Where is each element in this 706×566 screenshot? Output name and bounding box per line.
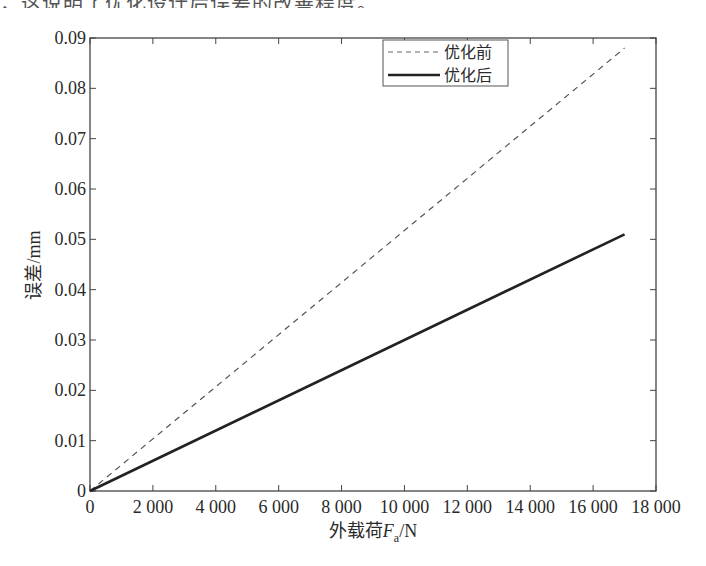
x-tick-label: 0 xyxy=(86,497,95,517)
x-tick-label: 14 000 xyxy=(505,497,555,517)
y-tick-label: 0.09 xyxy=(55,28,87,48)
x-axis-title: 外载荷Fa/N xyxy=(329,521,417,545)
x-axis-title-prefix: 外载荷 xyxy=(329,521,383,541)
y-tick-label: 0 xyxy=(77,481,86,501)
y-tick-labels: 00.010.020.030.040.050.060.070.080.09 xyxy=(55,28,87,501)
series-after-optimization xyxy=(90,234,625,491)
x-tick-label: 4 000 xyxy=(196,497,237,517)
y-tick-label: 0.06 xyxy=(55,179,87,199)
legend: 优化前 优化后 xyxy=(383,40,508,86)
x-axis-title-suffix: /N xyxy=(399,521,417,541)
x-tick-label: 18 000 xyxy=(631,497,681,517)
legend-label-after: 优化后 xyxy=(444,66,492,85)
x-tick-labels: 02 0004 0006 0008 00010 00012 00014 0001… xyxy=(86,497,681,517)
y-tick-label: 0.03 xyxy=(55,330,87,350)
y-tick-label: 0.07 xyxy=(55,129,87,149)
axis-ticks xyxy=(90,38,656,491)
x-tick-label: 8 000 xyxy=(321,497,362,517)
y-axis-title: 误差/mm xyxy=(24,230,44,299)
x-tick-label: 12 000 xyxy=(443,497,493,517)
y-tick-label: 0.05 xyxy=(55,229,87,249)
line-chart: 02 0004 0006 0008 00010 00012 00014 0001… xyxy=(0,0,706,566)
x-tick-label: 10 000 xyxy=(380,497,430,517)
y-tick-label: 0.08 xyxy=(55,78,87,98)
x-tick-label: 2 000 xyxy=(133,497,174,517)
y-tick-label: 0.04 xyxy=(55,280,87,300)
plot-frame xyxy=(90,38,656,491)
x-tick-label: 16 000 xyxy=(568,497,618,517)
legend-label-before: 优化前 xyxy=(444,43,492,62)
x-tick-label: 6 000 xyxy=(258,497,299,517)
y-tick-label: 0.02 xyxy=(55,380,87,400)
data-series xyxy=(90,48,625,491)
series-before-optimization xyxy=(90,48,625,491)
y-tick-label: 0.01 xyxy=(55,431,87,451)
